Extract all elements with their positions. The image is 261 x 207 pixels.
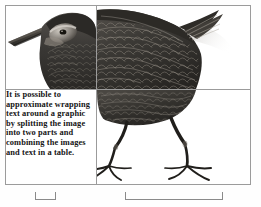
table-row: It is possible to approximate wrapping t… xyxy=(6,90,251,185)
table-cell-bottom-right[interactable] xyxy=(97,90,251,185)
table-cell-bottom-left[interactable]: It is possible to approximate wrapping t… xyxy=(6,90,97,185)
column-1-width-marker[interactable] xyxy=(35,192,56,200)
table-row xyxy=(6,6,251,90)
column-markers-label: column width markers xyxy=(0,188,1,189)
wrapping-demo-table[interactable]: It is possible to approximate wrapping t… xyxy=(5,5,251,185)
column-width-markers[interactable]: column width markers xyxy=(0,188,261,202)
document-canvas: It is possible to approximate wrapping t… xyxy=(0,0,261,207)
table-cell-top-right[interactable] xyxy=(97,6,251,90)
bird-illustration-top-right xyxy=(97,6,250,89)
bird-illustration-top-left xyxy=(6,6,96,89)
table-cell-top-left[interactable] xyxy=(6,6,97,90)
column-2-width-marker[interactable] xyxy=(125,192,223,200)
wrapping-explanation-text: It is possible to approximate wrapping t… xyxy=(6,90,96,157)
bird-illustration-bottom-right xyxy=(97,90,250,184)
